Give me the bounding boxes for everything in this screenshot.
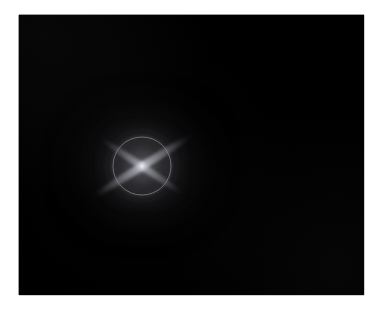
photo-frame: ···· — [19, 15, 364, 295]
plate-corner-mark: ···· — [307, 286, 314, 291]
plate-background-noise — [19, 15, 364, 295]
page-canvas: ···· — [0, 0, 378, 309]
